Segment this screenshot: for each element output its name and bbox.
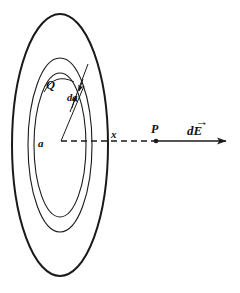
field-point-label: P — [151, 122, 159, 136]
charge-label: Q — [46, 78, 55, 92]
field-vector-accent: → — [195, 114, 208, 129]
figure-canvas: Q a da x P dE → — [0, 0, 240, 293]
area-element-label: da — [67, 92, 78, 103]
physics-figure: Q a da x P dE → — [0, 0, 240, 293]
radius-label: a — [38, 137, 44, 149]
figure-background — [0, 0, 240, 293]
axial-distance-label: x — [110, 128, 117, 140]
